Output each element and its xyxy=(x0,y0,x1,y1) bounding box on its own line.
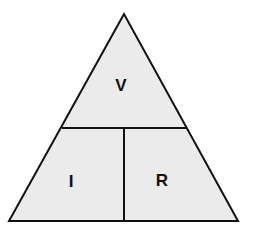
resistance-label: R xyxy=(156,171,168,190)
current-label: I xyxy=(69,172,74,191)
voltage-label: V xyxy=(115,76,127,95)
ohms-law-triangle: V I R xyxy=(0,0,256,244)
